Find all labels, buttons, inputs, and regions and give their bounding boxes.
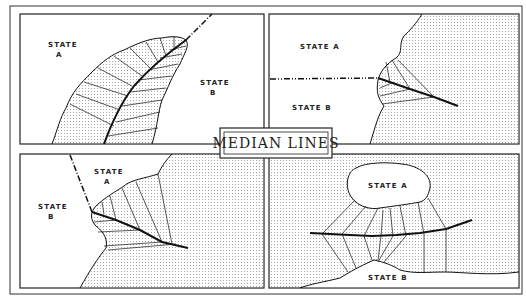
label-state-b-sub: B [48,213,55,221]
panel-bottom-right: STATE A STATE B [269,154,519,288]
label-state-b: STATE B [368,274,408,282]
label-state-b: STATE B [292,104,332,112]
label-state-a-sub: A [104,178,111,186]
label-state-a: STATE A [300,43,340,51]
panel-top-left: STATE A STATE B [20,14,264,144]
diagram-title: MEDIAN LINES [212,135,339,151]
label-state-a: STATE A [368,182,408,190]
panel-bottom-left: STATE A STATE B [20,154,264,288]
label-state-b-sub: B [210,89,217,97]
label-state-b: STATE [38,203,68,211]
label-state-a: STATE [48,41,78,49]
label-state-a-sub: A [56,51,63,59]
median-lines-diagram: STATE A STATE B STATE A STATE B [0,0,526,300]
label-state-a: STATE [94,168,124,176]
title-box: MEDIAN LINES [212,128,339,158]
label-state-b: STATE [200,79,230,87]
panel-top-right: STATE A STATE B [269,14,519,144]
